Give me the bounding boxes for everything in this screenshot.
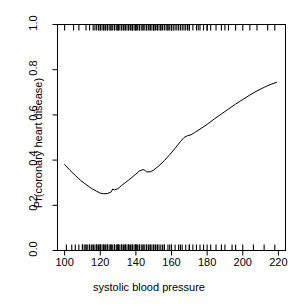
chart-figure: Pr(coronary heart disease) systolic bloo… [0, 0, 298, 306]
plot-frame [58, 25, 286, 251]
y-tick-label: 0.8 [27, 53, 39, 83]
x-tick-label: 140 [116, 256, 156, 268]
y-tick-label: 0.6 [27, 98, 39, 128]
y-tick-label: 0.2 [27, 188, 39, 218]
rug-plot-top [65, 25, 275, 31]
x-tick-label: 180 [187, 256, 227, 268]
x-axis-label: systolic blood pressure [0, 281, 298, 293]
x-tick-label: 200 [223, 256, 263, 268]
series-line-0 [65, 82, 277, 193]
y-tick-label: 0.4 [27, 143, 39, 173]
y-tick-label: 1.0 [27, 8, 39, 38]
x-tick-label: 100 [45, 256, 85, 268]
rug-plot-bottom [66, 245, 274, 251]
x-tick-label: 220 [258, 256, 298, 268]
x-tick-label: 120 [80, 256, 120, 268]
y-tick-label: 0.0 [27, 234, 39, 264]
x-tick-label: 160 [152, 256, 192, 268]
